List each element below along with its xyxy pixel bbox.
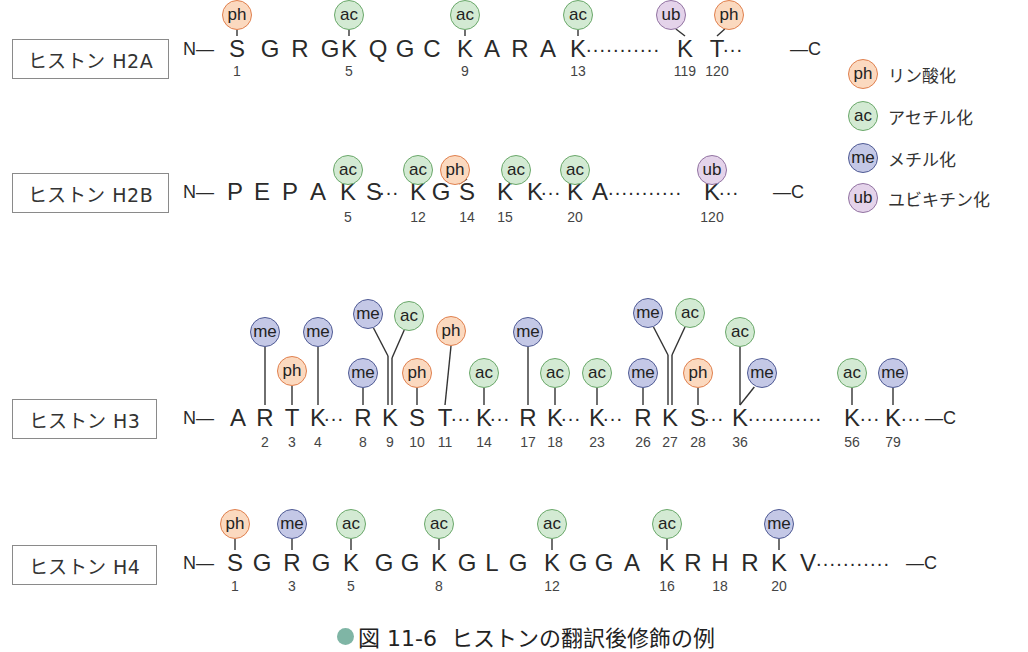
amino-acid-residue: K [844,406,860,430]
amino-acid-residue: G [401,551,420,575]
residue-position-number: 119 [674,64,696,78]
ph-modification-icon: ph [714,0,744,30]
amino-acid-residue: R [684,551,701,575]
residue-position-number: 5 [344,210,352,224]
ac-modification-icon: ac [501,155,531,185]
amino-acid-residue: K [457,37,473,61]
residue-position-number: 120 [705,64,728,78]
residue-position-number: 3 [288,435,296,449]
amino-acid-residue: S [459,180,475,204]
ac-modification-icon: ac [675,298,705,328]
connector-line [672,327,685,355]
residue-position-number: 13 [570,64,586,78]
residue-position-number: 26 [635,435,651,449]
ac-modification-icon: ac [336,509,366,539]
amino-acid-residue: P [282,180,298,204]
amino-acid-residue: K [677,37,693,61]
sequence-gap: ... [541,178,561,198]
sequence-gap: ... [860,404,880,424]
me-modification-icon: me [633,298,663,328]
me-modification-icon: me [353,299,383,329]
ub-modification-icon: ub [656,0,686,30]
label-box-h4: ヒストン H4 [12,545,157,585]
ac-modification-icon: ac [582,358,612,388]
residue-position-number: 120 [700,210,723,224]
residue-position-number: 11 [438,435,453,449]
ac-modification-icon: ac [725,317,755,347]
amino-acid-residue: K [732,406,748,430]
legend-label-ub: ユビキチン化 [888,186,990,211]
residue-position-number: 56 [844,435,860,449]
residue-position-number: 12 [544,579,560,593]
legend-item-me: me メチル化 [848,143,956,173]
label-box-h2a: ヒストン H2A [12,39,169,79]
sequence-gap: ........... [608,178,682,198]
amino-acid-residue: G [569,551,588,575]
residue-position-number: 9 [461,64,469,78]
ac-modification-icon: ac [837,358,867,388]
amino-acid-residue: R [519,406,536,430]
ac-modification-icon: ac [537,509,567,539]
ub-modification-icon: ub [697,155,727,185]
amino-acid-residue: A [540,37,556,61]
ubiquitination-icon: ub [848,183,878,213]
legend-label-me: メチル化 [888,146,956,171]
residue-position-number: 36 [732,435,748,449]
amino-acid-residue: K [662,406,678,430]
methylation-icon: me [848,143,878,173]
ph-modification-icon: ph [220,509,250,539]
amino-acid-residue: G [261,37,280,61]
caption-bullet-icon [337,628,354,645]
connector-line [374,328,389,356]
amino-acid-residue: K [382,406,398,430]
legend-item-ph: ph リン酸化 [848,59,956,89]
amino-acid-residue: S [227,551,243,575]
phosphorylation-icon: ph [848,59,878,89]
amino-acid-residue: S [229,37,245,61]
amino-acid-residue: A [230,406,246,430]
legend-item-ub: ub ユビキチン化 [848,183,990,213]
amino-acid-residue: K [570,37,586,61]
me-modification-icon: me [348,358,378,388]
amino-acid-residue: K [544,551,560,575]
amino-acid-residue: P [227,180,243,204]
sequence-gap: ... [324,404,344,424]
residue-position-number: 15 [497,210,513,224]
c-terminus: —C [773,183,804,201]
figure-caption: 図 11-6 ヒストンの翻訳後修飾の例 [337,620,715,652]
residue-position-number: 17 [520,435,536,449]
ac-modification-icon: ac [652,509,682,539]
amino-acid-residue: K [659,551,675,575]
caption-text: ヒストンの翻訳後修飾の例 [451,620,715,652]
ac-modification-icon: ac [540,358,570,388]
n-terminus: N— [183,183,214,201]
residue-position-number: 28 [690,435,706,449]
amino-acid-residue: G [432,180,451,204]
ph-modification-icon: ph [440,155,470,185]
amino-acid-residue: R [256,406,273,430]
amino-acid-residue: V [800,551,816,575]
amino-acid-residue: R [634,406,651,430]
me-modification-icon: me [764,509,794,539]
residue-position-number: 3 [288,579,296,593]
amino-acid-residue: T [285,406,300,430]
sequence-gap: ........... [816,549,890,569]
me-modification-icon: me [628,358,658,388]
amino-acid-residue: R [354,406,371,430]
amino-acid-residue: G [595,551,614,575]
residue-position-number: 12 [410,210,426,224]
amino-acid-residue: R [511,37,528,61]
connector-line [445,346,451,405]
ac-modification-icon: ac [450,0,480,30]
label-box-h3: ヒストン H3 [12,399,157,439]
amino-acid-residue: A [624,551,640,575]
ac-modification-icon: ac [394,301,424,331]
sequence-gap: ... [901,404,921,424]
residue-position-number: 23 [589,435,605,449]
amino-acid-residue: G [321,37,340,61]
amino-acid-residue: G [396,37,415,61]
amino-acid-residue: A [484,37,500,61]
label-h2a: ヒストン H2A [28,46,153,73]
amino-acid-residue: G [375,551,394,575]
